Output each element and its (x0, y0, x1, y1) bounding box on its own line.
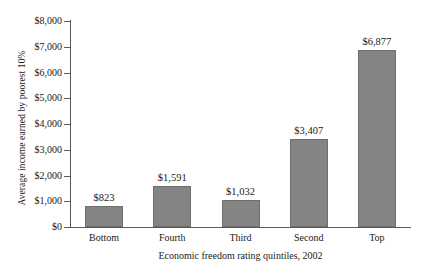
bar-chart: Average income earned by poorest 10% $0$… (0, 0, 429, 273)
plot-area: $823$1,591$1,032$3,407$6,877 (70, 21, 411, 227)
y-axis-tick-label: $4,000 (6, 119, 62, 129)
y-axis-tick-label: $3,000 (6, 145, 62, 155)
bar-value-label: $3,407 (269, 125, 349, 136)
y-axis-tick-label: $7,000 (6, 42, 62, 52)
bar-value-label: $6,877 (337, 36, 417, 47)
y-axis-tick-label-wrap: $3,000 (0, 145, 62, 155)
y-axis-tick-label: $2,000 (6, 171, 62, 181)
x-axis-title: Economic freedom rating quintiles, 2002 (70, 250, 411, 262)
bar-fourth (153, 186, 191, 227)
y-axis-tick-label-wrap: $2,000 (0, 171, 62, 181)
y-axis-tick-label: $5,000 (6, 93, 62, 103)
y-axis-tick-label-wrap: $0 (0, 222, 62, 232)
bar-third (222, 200, 260, 227)
y-axis-tick-label: $1,000 (6, 196, 62, 206)
bar-bottom (85, 206, 123, 227)
x-axis-line (70, 227, 411, 228)
bar-second (290, 139, 328, 227)
y-axis-tick (64, 227, 70, 228)
y-axis-tick-label-wrap: $5,000 (0, 93, 62, 103)
bar-value-label: $823 (64, 192, 144, 203)
y-axis-tick-label-wrap: $1,000 (0, 196, 62, 206)
y-axis-tick-label: $6,000 (6, 68, 62, 78)
y-axis-tick-label-wrap: $6,000 (0, 68, 62, 78)
y-axis-tick-label-wrap: $8,000 (0, 16, 62, 26)
x-axis-tick-label: Top (337, 232, 417, 244)
y-axis-tick-label: $8,000 (6, 16, 62, 26)
y-axis-tick-label: $0 (6, 222, 62, 232)
y-axis-tick-label-wrap: $7,000 (0, 42, 62, 52)
bar-top (358, 50, 396, 227)
bar-value-label: $1,032 (201, 186, 281, 197)
bar-value-label: $1,591 (132, 172, 212, 183)
y-axis-tick-label-wrap: $4,000 (0, 119, 62, 129)
